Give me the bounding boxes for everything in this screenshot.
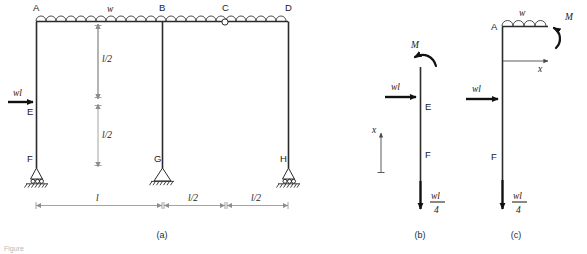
hinge-c-icon — [222, 19, 228, 25]
figure-container: A B C D E F G H w wl l/2 — [0, 0, 587, 254]
node-label-e-b: E — [425, 101, 431, 112]
load-label-w-c: w — [519, 8, 526, 18]
force-label-wl-b: wl — [391, 82, 400, 92]
node-label-f: F — [27, 153, 33, 164]
node-label-h: H — [280, 153, 287, 164]
node-label-b: B — [159, 2, 165, 13]
support-f — [25, 168, 49, 188]
dimension-label-horizontal-right: l/2 — [251, 193, 261, 203]
panel-c: w A F M x wl wl 4 (c) — [466, 8, 574, 240]
node-label-d: D — [285, 2, 292, 13]
node-label-f-b: F — [425, 149, 431, 160]
distributed-load-arcs-c — [502, 21, 546, 26]
moment-label-m-b: M — [410, 40, 420, 50]
node-label-a-c: A — [491, 21, 498, 32]
structural-frame-diagram: A B C D E F G H w wl l/2 — [0, 0, 587, 254]
panel-b: M wl E F x wl 4 (b) — [371, 40, 445, 240]
reaction-label-b: wl 4 — [430, 191, 445, 215]
figure-bottom-caption: Figure — [4, 245, 24, 253]
dimension-label-horizontal-left: l — [96, 193, 99, 203]
reaction-denominator-b: 4 — [434, 205, 439, 215]
panel-caption-b: (b) — [415, 230, 426, 240]
moment-label-m-c: M — [564, 12, 574, 22]
panel-caption-a: (a) — [157, 230, 168, 240]
dimension-label-vertical-lower: l/2 — [102, 130, 112, 140]
support-h — [277, 168, 301, 188]
node-label-g: G — [154, 153, 161, 164]
horizontal-dimension-a: l l/2 l/2 — [36, 193, 288, 209]
dimension-label-vertical-upper: l/2 — [102, 54, 112, 64]
distributed-load-arcs-a — [36, 16, 286, 21]
axis-label-x-b: x — [371, 125, 377, 135]
reaction-label-c: wl 4 — [512, 191, 527, 215]
vertical-dimension-a: l/2 l/2 — [95, 24, 113, 167]
node-label-f-c: F — [491, 151, 497, 162]
reaction-numerator-c: wl — [513, 191, 522, 201]
node-label-e: E — [27, 106, 33, 117]
dimension-label-horizontal-mid: l/2 — [188, 193, 198, 203]
node-label-c: C — [222, 2, 229, 13]
node-label-a: A — [33, 2, 40, 13]
moment-arrow-m-b — [415, 55, 436, 66]
force-label-wl-a: wl — [13, 88, 22, 98]
moment-arrow-m-c — [554, 28, 560, 48]
panel-a: A B C D E F G H w wl l/2 — [8, 2, 300, 240]
reaction-denominator-c: 4 — [516, 205, 521, 215]
load-label-w-a: w — [107, 4, 114, 14]
reaction-numerator-b: wl — [431, 191, 440, 201]
panel-caption-c: (c) — [511, 230, 522, 240]
force-label-wl-c: wl — [472, 84, 481, 94]
support-g — [150, 168, 175, 185]
axis-label-x-c: x — [537, 64, 543, 74]
